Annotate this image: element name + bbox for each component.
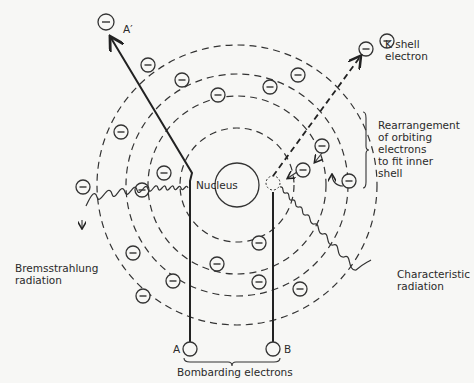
rearrangement-brace [363, 112, 369, 188]
nucleus-label: Nucleus [196, 179, 238, 191]
label-a-prime: A′ [123, 23, 133, 35]
k-electron-ejection-path [273, 57, 360, 176]
label-b: B [284, 343, 291, 355]
electron-a [183, 342, 197, 356]
label-bremsstrahlung: Bremsstrahlung radiation [15, 262, 98, 286]
label-rearrangement: Rearrangement of orbiting electrons to f… [378, 119, 460, 179]
bombarding-brace [184, 358, 280, 366]
k-shell-vacancy [266, 176, 280, 190]
label-k-shell-electron: K shell electron [385, 38, 428, 62]
label-a: A [173, 343, 180, 355]
label-characteristic: Characteristic radiation [397, 268, 470, 292]
label-bombarding-electrons: Bombarding electrons [177, 366, 293, 378]
electron-b [266, 342, 280, 356]
atom-xray-interaction-diagram: Nucleus A′ K shell electron Rearrangemen… [0, 0, 474, 383]
bremsstrahlung-wave [86, 186, 188, 206]
